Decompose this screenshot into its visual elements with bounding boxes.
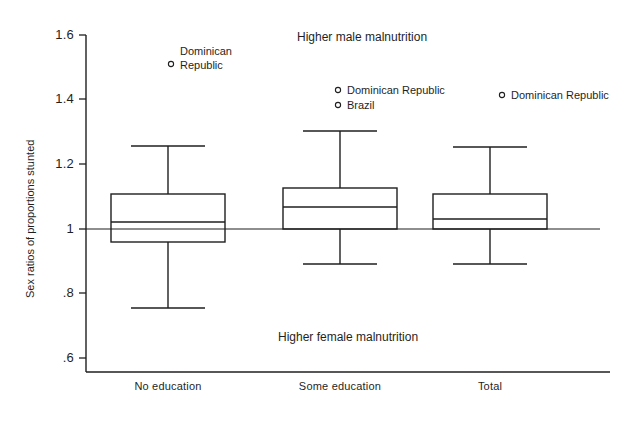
boxplot-total bbox=[433, 147, 547, 264]
iqr-box bbox=[111, 194, 225, 242]
outlier-label-dominican-republic-no-education-line2: Republic bbox=[180, 59, 223, 72]
boxplot-figure: 1.6 1.4 1.2 1 .8 .6 Sex ratios of propor… bbox=[0, 0, 631, 423]
annotation-higher-male-malnutrition: Higher male malnutrition bbox=[297, 30, 427, 44]
outlier-marker-dominican-republic-some-education bbox=[335, 87, 340, 92]
x-tick-label-total: Total bbox=[430, 380, 550, 392]
boxplot-no-education bbox=[111, 146, 225, 308]
outlier-marker-brazil-some-education bbox=[335, 102, 340, 107]
y-tick-label-0_6: .6 bbox=[34, 350, 74, 365]
outlier-label-dominican-republic-some-education: Dominican Republic bbox=[347, 84, 445, 97]
y-tick-label-1_6: 1.6 bbox=[34, 27, 74, 42]
outlier-label-dominican-republic-total: Dominican Republic bbox=[511, 89, 609, 102]
y-axis-ticks bbox=[79, 35, 86, 358]
x-tick-label-no-education: No education bbox=[108, 380, 228, 392]
annotation-higher-female-malnutrition: Higher female malnutrition bbox=[278, 330, 418, 344]
y-tick-label-1: 1 bbox=[34, 221, 74, 236]
outlier-label-dominican-republic-no-education-line1: Dominican bbox=[180, 45, 232, 58]
y-tick-label-0_8: .8 bbox=[34, 285, 74, 300]
iqr-box bbox=[433, 194, 547, 229]
y-tick-label-1_2: 1.2 bbox=[34, 156, 74, 171]
y-tick-label-1_4: 1.4 bbox=[34, 91, 74, 106]
x-tick-label-some-education: Some education bbox=[280, 380, 400, 392]
outlier-label-brazil-some-education: Brazil bbox=[347, 99, 375, 112]
outlier-marker-dominican-republic-total bbox=[499, 92, 504, 97]
y-axis-title: Sex ratios of proportions stunted bbox=[24, 140, 36, 298]
plot-canvas bbox=[0, 0, 631, 423]
iqr-box bbox=[283, 188, 397, 229]
outlier-marker-dominican-republic-no-education bbox=[168, 61, 173, 66]
boxplot-some-education bbox=[283, 131, 397, 264]
